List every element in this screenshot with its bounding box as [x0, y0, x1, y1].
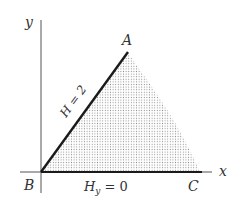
x-axis-label: x — [219, 163, 227, 179]
point-a-label: A — [120, 32, 132, 48]
diagram-canvas: y x A B C H = 2 Hy = 0 — [0, 0, 239, 198]
point-c-label: C — [188, 178, 199, 194]
boundary-bc-label-main: H — [83, 179, 96, 194]
point-b-label: B — [23, 177, 34, 193]
boundary-bc-label: Hy = 0 — [83, 179, 128, 196]
boundary-bc-label-rest: = 0 — [100, 179, 127, 194]
y-axis-label: y — [24, 14, 34, 30]
